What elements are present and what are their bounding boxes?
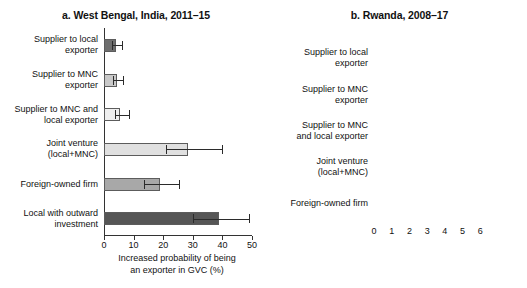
error-bar-cap (179, 180, 180, 189)
category-label: Foreign-owned firm (280, 198, 368, 209)
figure-root: a. West Bengal, India, 2011–15 Increased… (0, 0, 527, 288)
bar-row (104, 143, 252, 156)
error-bar-cap (123, 76, 124, 85)
category-label: Supplier to MNC and local exporter (0, 104, 98, 126)
x-tick-label: 30 (183, 240, 203, 250)
error-bar-cap (112, 41, 113, 50)
error-bar (113, 80, 122, 81)
category-label: Supplier to MNC and local exporter (280, 120, 368, 142)
error-bar-cap (222, 145, 223, 154)
y-axis-line-a (104, 28, 105, 236)
bar-row (104, 212, 252, 225)
panel-b-title: b. Rwanda, 2008–17 (272, 9, 527, 21)
bar-row (104, 178, 252, 191)
category-label: Supplier to local exporter (0, 34, 98, 56)
error-bar-cap (122, 41, 123, 50)
x-axis-title-a: Increased probability of being an export… (72, 252, 282, 276)
error-bar-cap (129, 110, 130, 119)
category-label: Supplier to local exporter (280, 47, 368, 69)
panel-a-title: a. West Bengal, India, 2011–15 (0, 9, 272, 21)
error-bar (144, 184, 180, 185)
error-bar (112, 45, 121, 46)
category-label: Joint venture (local+MNC) (280, 156, 368, 178)
category-label: Local with outward investment (0, 208, 98, 230)
x-axis-line-a (104, 235, 252, 236)
error-bar-cap (144, 180, 145, 189)
bar-row (104, 74, 252, 87)
category-label: Foreign-owned firm (0, 179, 98, 190)
x-tick-label: 50 (242, 240, 262, 250)
panel-rwanda: b. Rwanda, 2008–17 Increased probability… (272, 0, 527, 288)
error-bar-cap (193, 214, 194, 223)
bar-row (104, 39, 252, 52)
x-tick-label: 6 (470, 226, 490, 236)
error-bar-cap (113, 76, 114, 85)
x-tick-label: 20 (153, 240, 173, 250)
plot-area-a (104, 28, 252, 236)
error-bar (166, 149, 222, 150)
x-tick-label: 0 (94, 240, 114, 250)
error-bar-cap (115, 110, 116, 119)
x-tick-label: 40 (212, 240, 232, 250)
bar-row (104, 108, 252, 121)
error-bar (115, 115, 130, 116)
error-bar-cap (249, 214, 250, 223)
error-bar (193, 219, 249, 220)
x-tick-label: 10 (124, 240, 144, 250)
category-label: Supplier to MNC exporter (280, 84, 368, 106)
category-label: Supplier to MNC exporter (0, 69, 98, 91)
category-label: Joint venture (local+MNC) (0, 138, 98, 160)
error-bar-cap (166, 145, 167, 154)
